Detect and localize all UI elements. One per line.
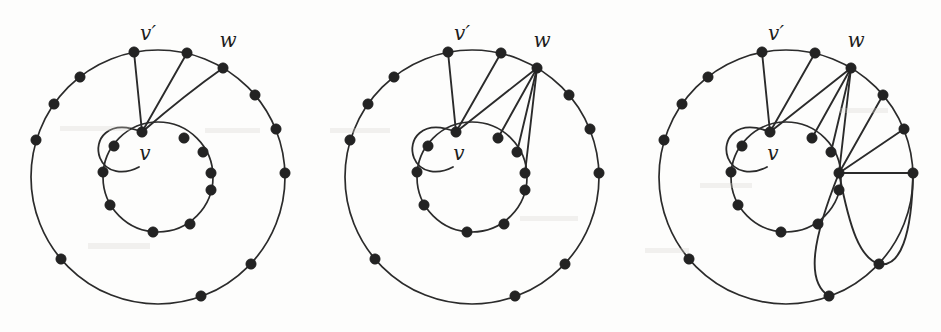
outer-vertex [370, 254, 380, 264]
edge-w-to-inner-3 [525, 68, 537, 173]
outer-vertex [560, 259, 570, 269]
outer-vertex [878, 90, 888, 100]
vertex-vprime [443, 47, 453, 57]
outer-vertex [659, 135, 669, 145]
fan-edges-from-v [134, 52, 223, 132]
outer-vertex [585, 124, 595, 134]
fan-edges-from-v [448, 52, 501, 132]
outer-vertex [703, 72, 713, 82]
inner-vertex [499, 219, 509, 229]
label-v-prime: v′ [454, 21, 470, 45]
edge-v-to-w [142, 68, 223, 132]
inner-cycle [417, 122, 527, 232]
inner-vertex [512, 147, 522, 157]
outer-vertex [196, 291, 206, 301]
outer-vertex [250, 90, 260, 100]
self-loop-at-v [412, 128, 456, 172]
outer-vertex [594, 168, 604, 178]
outer-vertex [75, 72, 85, 82]
outer-vertex [182, 48, 192, 58]
outer-vertex [908, 168, 918, 178]
inner-vertex [462, 227, 472, 237]
panel-1-canvas: v′ w v [0, 0, 313, 332]
inner-vertex [423, 141, 433, 151]
inner-vertex-group [412, 127, 530, 237]
vertex-vprime [757, 47, 767, 57]
inner-vertex [148, 227, 158, 237]
label-w: w [847, 28, 864, 52]
edge-v-to-vprime [448, 52, 456, 132]
inner-vertex [520, 185, 530, 195]
outer-vertex [271, 124, 281, 134]
outer-vertex [564, 90, 574, 100]
inner-vertex [109, 141, 119, 151]
edge-w-to-inner-3 [839, 68, 851, 173]
edge-v-to-outer-1 [456, 53, 501, 132]
inner-vertex [493, 133, 503, 143]
fan-edges-from-v [762, 52, 815, 132]
outer-vertex [899, 124, 909, 134]
vertex-v [451, 127, 461, 137]
inner-vertex [726, 167, 736, 177]
vertex-w [532, 63, 542, 73]
label-v: v [139, 141, 151, 165]
inner-vertex [412, 167, 422, 177]
inner-vertex [776, 227, 786, 237]
inner-cycle [103, 122, 213, 232]
edge-inner-to-outer-3 [839, 95, 883, 173]
inner-vertex [98, 167, 108, 177]
outer-vertex [510, 291, 520, 301]
inner-vertex [834, 168, 844, 178]
self-loop-at-v [98, 128, 142, 172]
edge-v-to-vprime [134, 52, 142, 132]
outer-vertex [56, 254, 66, 264]
inner-vertex [520, 168, 530, 178]
fan-edges-from-w [456, 68, 537, 173]
figure-panel-3: v′ w v [628, 0, 941, 332]
label-v: v [767, 141, 779, 165]
inner-vertex [185, 219, 195, 229]
edge-v-to-outer-1 [142, 53, 187, 132]
inner-vertex [813, 219, 823, 229]
self-loop-at-v [726, 128, 770, 172]
inner-vertex [179, 133, 189, 143]
edge-curve-inner-to-outer-6 [839, 173, 879, 264]
outer-vertex [363, 99, 373, 109]
vertex-w [218, 63, 228, 73]
label-v: v [453, 141, 465, 165]
inner-vertex-group [726, 127, 844, 237]
edge-v-to-vprime [762, 52, 770, 132]
inner-circle-path [103, 122, 213, 232]
inner-vertex-group [98, 127, 216, 237]
label-v-prime: v′ [140, 21, 156, 45]
inner-vertex [737, 141, 747, 151]
outer-vertex [496, 48, 506, 58]
label-w: w [219, 28, 236, 52]
vertex-w [846, 63, 856, 73]
inner-vertex [198, 147, 208, 157]
panel-3-canvas: v′ w v [628, 0, 941, 332]
vertex-v [765, 127, 775, 137]
inner-vertex [733, 200, 743, 210]
inner-vertex [419, 200, 429, 210]
inner-vertex [206, 168, 216, 178]
edge-curve-outer-5-to-outer-6 [879, 173, 913, 264]
inner-vertex [826, 147, 836, 157]
outer-vertex [677, 99, 687, 109]
outer-vertex [345, 135, 355, 145]
inner-vertex [834, 185, 844, 195]
label-w: w [533, 28, 550, 52]
panel-2-canvas: v′ w v [314, 0, 627, 332]
figure-panel-1: v′ w v [0, 0, 313, 332]
vertex-vprime [129, 47, 139, 57]
edge-inner-to-outer-4 [839, 129, 904, 173]
outer-vertex [49, 99, 59, 109]
outer-vertex [824, 291, 834, 301]
outer-vertex [874, 259, 884, 269]
inner-vertex [105, 200, 115, 210]
inner-vertex [206, 185, 216, 195]
fan-edges-from-w [770, 68, 851, 173]
outer-vertex [684, 254, 694, 264]
inner-circle-path [417, 122, 527, 232]
vertex-v [137, 127, 147, 137]
